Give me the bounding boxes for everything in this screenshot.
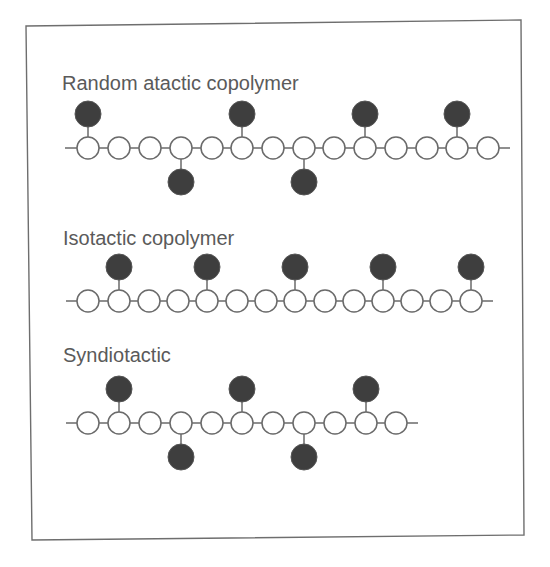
backbone-unit bbox=[167, 290, 189, 312]
side-group-up bbox=[353, 376, 379, 402]
backbone-unit bbox=[201, 137, 223, 159]
side-group-up bbox=[229, 376, 255, 402]
backbone-unit bbox=[170, 412, 192, 434]
side-group-up bbox=[106, 376, 132, 402]
backbone-unit bbox=[354, 137, 376, 159]
backbone-unit bbox=[446, 137, 468, 159]
backbone-unit bbox=[355, 412, 377, 434]
backbone-unit bbox=[314, 290, 336, 312]
backbone-unit bbox=[138, 290, 160, 312]
backbone-unit bbox=[477, 137, 499, 159]
backbone-unit bbox=[196, 290, 218, 312]
backbone-unit bbox=[323, 137, 345, 159]
backbone-unit bbox=[77, 137, 99, 159]
side-group-down bbox=[291, 444, 317, 470]
backbone-unit bbox=[343, 290, 365, 312]
backbone-unit bbox=[262, 412, 284, 434]
side-group-up bbox=[106, 254, 132, 280]
side-group-down bbox=[291, 169, 317, 195]
backbone-unit bbox=[324, 412, 346, 434]
side-group-up bbox=[194, 254, 220, 280]
side-group-down bbox=[168, 169, 194, 195]
backbone-unit bbox=[77, 290, 99, 312]
backbone-unit bbox=[139, 137, 161, 159]
backbone-unit bbox=[416, 137, 438, 159]
backbone-unit bbox=[262, 137, 284, 159]
backbone-unit bbox=[170, 137, 192, 159]
backbone-unit bbox=[255, 290, 277, 312]
side-group-up bbox=[370, 254, 396, 280]
side-group-up bbox=[229, 101, 255, 127]
side-group-up bbox=[352, 101, 378, 127]
backbone-unit bbox=[231, 412, 253, 434]
row-isotactic: Isotactic copolymer bbox=[63, 227, 493, 312]
row-random-atactic: Random atactic copolymer bbox=[62, 72, 510, 195]
side-group-up bbox=[458, 254, 484, 280]
row-label-isotactic: Isotactic copolymer bbox=[63, 227, 235, 249]
backbone-unit bbox=[385, 137, 407, 159]
backbone-unit bbox=[231, 137, 253, 159]
side-group-up bbox=[282, 254, 308, 280]
backbone-unit bbox=[108, 412, 130, 434]
backbone-unit bbox=[77, 412, 99, 434]
backbone-unit bbox=[430, 290, 452, 312]
backbone-unit bbox=[226, 290, 248, 312]
backbone-unit bbox=[372, 290, 394, 312]
diagram-frame bbox=[26, 20, 524, 540]
side-group-down bbox=[168, 444, 194, 470]
side-group-up bbox=[75, 101, 101, 127]
row-syndiotactic: Syndiotactic bbox=[63, 344, 418, 470]
backbone-unit bbox=[201, 412, 223, 434]
row-label-syndiotactic: Syndiotactic bbox=[63, 344, 171, 366]
backbone-unit bbox=[385, 412, 407, 434]
backbone-unit bbox=[108, 290, 130, 312]
backbone-unit bbox=[401, 290, 423, 312]
side-group-up bbox=[444, 101, 470, 127]
backbone-unit bbox=[293, 137, 315, 159]
backbone-unit bbox=[293, 412, 315, 434]
backbone-unit bbox=[460, 290, 482, 312]
row-label-random-atactic: Random atactic copolymer bbox=[62, 72, 299, 94]
backbone-unit bbox=[108, 137, 130, 159]
backbone-unit bbox=[284, 290, 306, 312]
backbone-unit bbox=[139, 412, 161, 434]
polymer-tacticity-diagram: Random atactic copolymer Isotactic copol… bbox=[0, 0, 550, 567]
